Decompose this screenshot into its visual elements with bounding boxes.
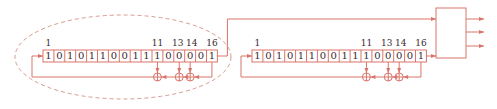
tap-label: 14: [186, 38, 198, 48]
bit-cell: 0: [165, 50, 171, 61]
bit-cell: 1: [154, 50, 160, 61]
arrowhead-icon: [403, 75, 408, 79]
arrowhead-icon: [247, 54, 252, 58]
bit-cell: 1: [45, 50, 51, 61]
arrowhead-icon: [479, 17, 484, 21]
bit-cell: 1: [276, 50, 282, 61]
bit-cell: 1: [100, 50, 106, 61]
diagram-canvas: 1010110011100001111131416101011001110000…: [0, 0, 497, 109]
bit-cell: 0: [374, 50, 380, 61]
tap-label: 11: [152, 38, 163, 48]
bit-cell: 1: [363, 50, 369, 61]
bit-cell: 0: [78, 50, 84, 61]
bit-cell: 1: [132, 50, 138, 61]
tap-label: 11: [361, 38, 372, 48]
bit-cell: 0: [320, 50, 326, 61]
bit-cell: 1: [254, 50, 260, 61]
arrowhead-icon: [194, 75, 199, 79]
arrowhead-icon: [177, 68, 181, 73]
bit-cell: 0: [111, 50, 117, 61]
bit-cell: 0: [407, 50, 413, 61]
bit-cell: 1: [209, 50, 215, 61]
tap-label: 16: [206, 38, 218, 48]
bit-cell: 0: [396, 50, 402, 61]
arrowhead-icon: [188, 68, 192, 73]
bit-cell: 0: [331, 50, 337, 61]
bit-cell: 0: [198, 50, 204, 61]
arrowhead-icon: [364, 68, 368, 73]
bit-cell: 0: [176, 50, 182, 61]
bit-cell: 1: [309, 50, 315, 61]
bit-cell: 1: [67, 50, 73, 61]
bit-cell: 0: [287, 50, 293, 61]
tap-label: 13: [172, 38, 184, 48]
bit-cell: 1: [418, 50, 424, 61]
bit-cell: 1: [341, 50, 347, 61]
tap-label: 1: [46, 38, 52, 48]
arrowhead-icon: [161, 75, 166, 79]
arrowhead-icon: [38, 54, 43, 58]
arrowhead-icon: [479, 44, 484, 48]
bit-cell: 0: [265, 50, 271, 61]
bit-cell: 1: [298, 50, 304, 61]
bit-cell: 1: [89, 50, 95, 61]
bit-cell: 1: [143, 50, 149, 61]
arrowhead-icon: [431, 17, 436, 21]
tap-label: 13: [381, 38, 393, 48]
arrowhead-icon: [370, 75, 375, 79]
bit-cell: 0: [122, 50, 128, 61]
bit-cell: 0: [187, 50, 193, 61]
lfsr-diagram: 1010110011100001111131416101011001110000…: [0, 0, 497, 109]
bit-cell: 0: [56, 50, 62, 61]
arrowhead-icon: [386, 68, 390, 73]
arrowhead-icon: [431, 54, 436, 58]
arrowhead-icon: [479, 30, 484, 34]
tap-label: 1: [255, 38, 261, 48]
combiner-box: [436, 8, 466, 58]
arrowhead-icon: [155, 68, 159, 73]
arrowhead-icon: [397, 68, 401, 73]
bit-cell: 0: [385, 50, 391, 61]
tap-label: 16: [415, 38, 427, 48]
bit-cell: 1: [352, 50, 358, 61]
tap-label: 14: [395, 38, 407, 48]
